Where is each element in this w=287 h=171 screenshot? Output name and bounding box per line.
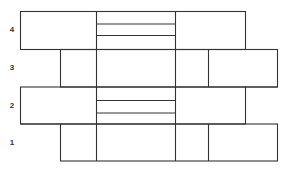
row-label-3: 3 [7,63,17,72]
row-2-outline [21,87,246,124]
row-label-4: 4 [7,25,17,34]
row-3 [21,50,278,88]
course-diagram: 4 3 2 1 [0,0,287,171]
diagram-canvas [0,0,287,171]
row-4-outline [21,12,246,50]
row-label-1: 1 [7,138,17,147]
row-1-outline [61,124,278,161]
row-3-outline [61,50,278,88]
row-1 [21,124,278,161]
row-4 [21,12,246,50]
row-label-2: 2 [7,101,17,110]
row-2 [21,87,278,124]
